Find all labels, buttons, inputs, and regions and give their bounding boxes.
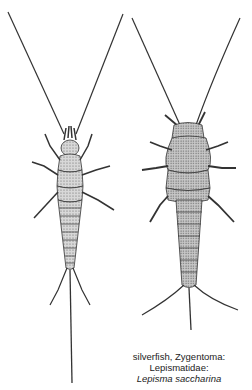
figure-caption: silverfish, Zygentoma: Lepismatidae: Lep… — [114, 351, 244, 384]
left-silverfish — [8, 12, 123, 383]
silverfish-drawing — [0, 0, 252, 390]
caption-line-family: Lepismatidae: — [114, 362, 244, 373]
illustration-canvas: silverfish, Zygentoma: Lepismatidae: Lep… — [0, 0, 252, 390]
caption-line-species: Lepisma saccharina — [114, 373, 244, 384]
caption-line-common-name: silverfish, Zygentoma: — [114, 351, 244, 362]
right-silverfish — [132, 18, 240, 330]
